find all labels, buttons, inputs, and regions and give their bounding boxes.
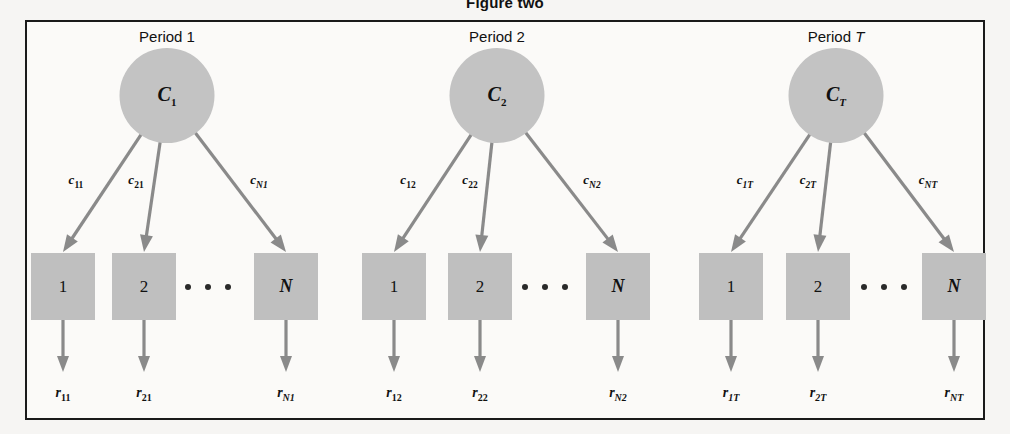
project-box-1-3[interactable]: N (254, 253, 318, 320)
cost-label-3-1: c1T (737, 172, 753, 190)
return-label-3-2: r2T (810, 385, 827, 403)
project-box-2-2[interactable]: 2 (448, 253, 512, 320)
return-label-2-2: r22 (472, 385, 487, 403)
return-label-2-1: r12 (386, 385, 401, 403)
group-title-3: Period T (808, 28, 865, 45)
ellipsis-2 (522, 284, 568, 290)
return-label-3-3: rNT (945, 385, 964, 403)
project-box-3-1[interactable]: 1 (699, 253, 763, 320)
project-box-3-3[interactable]: N (922, 253, 986, 320)
cost-label-3-2: c2T (800, 172, 816, 190)
project-box-2-3[interactable]: N (586, 253, 650, 320)
period-node-1[interactable]: C1 (120, 48, 215, 143)
group-title-1: Period 1 (139, 28, 195, 45)
cost-label-1-3: cN1 (250, 172, 267, 190)
cost-label-2-1: c12 (400, 172, 415, 190)
cost-label-2-3: cN2 (583, 172, 600, 190)
return-label-2-3: rN2 (609, 385, 627, 403)
ellipsis-3 (861, 284, 907, 290)
cost-label-1-2: c21 (128, 172, 143, 190)
project-box-3-2[interactable]: 2 (786, 253, 850, 320)
cost-label-3-3: cNT (919, 172, 937, 190)
project-box-1-1[interactable]: 1 (31, 253, 95, 320)
period-node-3[interactable]: CT (789, 48, 884, 143)
project-box-1-2[interactable]: 2 (112, 253, 176, 320)
project-box-2-1[interactable]: 1 (362, 253, 426, 320)
return-label-1-3: rN1 (277, 385, 295, 403)
return-label-1-1: r11 (56, 385, 71, 403)
ellipsis-1 (185, 284, 231, 290)
return-label-1-2: r21 (136, 385, 151, 403)
group-title-2: Period 2 (469, 28, 525, 45)
cost-label-1-1: c11 (69, 172, 84, 190)
cost-label-2-2: c22 (462, 172, 477, 190)
return-label-3-1: r1T (723, 385, 740, 403)
period-node-2[interactable]: C2 (450, 48, 545, 143)
